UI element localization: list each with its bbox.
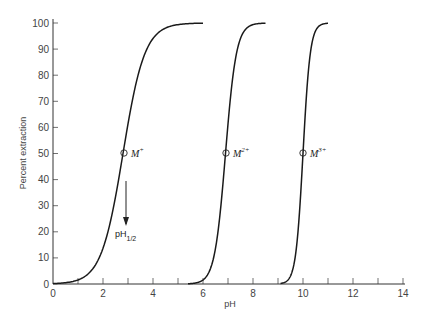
y-tick-label: 40 [38, 174, 50, 185]
m3-label: M3+ [309, 146, 327, 159]
extraction-chart: 024681012140102030405060708090100 M+ M2+… [0, 0, 426, 323]
x-tick-label: 14 [397, 288, 409, 299]
y-tick-label: 90 [38, 44, 50, 55]
down-arrow-icon [123, 181, 129, 226]
x-tick-label: 6 [200, 288, 206, 299]
curves [53, 23, 328, 284]
m1-label: M+ [130, 146, 144, 159]
y-tick-label: 0 [43, 279, 49, 290]
x-tick-label: 0 [50, 288, 56, 299]
y-tick-label: 30 [38, 200, 50, 211]
axes: 024681012140102030405060708090100 [32, 18, 409, 300]
annotations: M+ M2+ M3+ pH1/2 [115, 146, 327, 242]
y-tick-label: 100 [32, 18, 49, 29]
x-tick-label: 12 [347, 288, 359, 299]
y-tick-label: 50 [38, 148, 50, 159]
y-tick-label: 70 [38, 96, 50, 107]
x-tick-label: 2 [100, 288, 106, 299]
y-axis-title: Percent extraction [18, 117, 28, 190]
y-tick-label: 10 [38, 252, 50, 263]
curve-M2plus [188, 23, 266, 284]
x-axis-title: pH [224, 299, 236, 309]
y-tick-label: 80 [38, 70, 50, 81]
curve-Mplus [53, 23, 203, 283]
ph-half-label: pH1/2 [115, 229, 136, 242]
x-tick-label: 10 [297, 288, 309, 299]
m2-label: M2+ [232, 146, 250, 159]
y-tick-label: 20 [38, 226, 50, 237]
y-tick-label: 60 [38, 122, 50, 133]
x-tick-label: 4 [150, 288, 156, 299]
x-tick-label: 8 [250, 288, 256, 299]
